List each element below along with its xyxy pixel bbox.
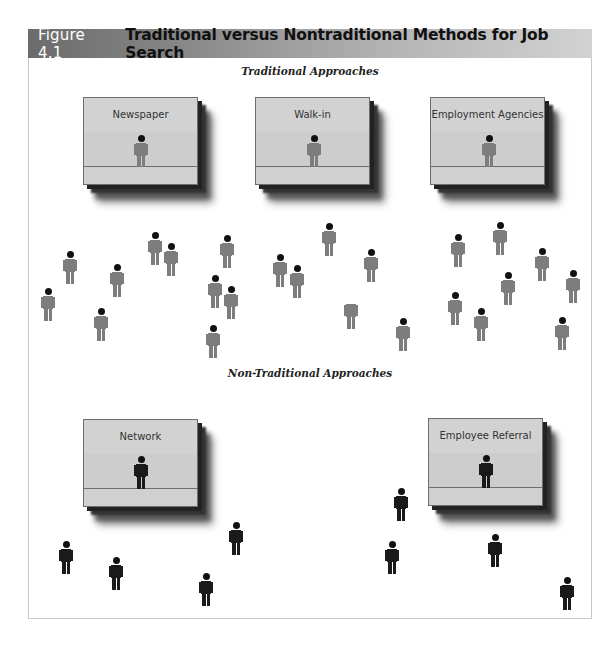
person-icon <box>273 254 287 288</box>
person-icon <box>134 135 148 169</box>
box-bottom-band <box>84 489 197 506</box>
box-network: Network <box>83 419 198 507</box>
box-middle-band <box>431 132 544 167</box>
person-icon <box>560 577 574 611</box>
box-walk-in: Walk-in <box>255 97 370 185</box>
box-middle-band <box>256 132 369 167</box>
person-icon <box>474 308 488 342</box>
box-newspaper: Newspaper <box>83 97 198 185</box>
person-icon <box>364 249 378 283</box>
person-icon <box>148 232 162 266</box>
box-middle-band <box>84 132 197 167</box>
box-bottom-band <box>429 488 542 505</box>
person-icon <box>206 325 220 359</box>
person-icon <box>229 522 243 556</box>
person-icon <box>109 557 123 591</box>
figure-title: Traditional versus Nontraditional Method… <box>125 26 592 62</box>
person-icon <box>322 223 336 257</box>
person-icon <box>396 318 410 352</box>
figure-title-bar: Figure 4.1 Traditional versus Nontraditi… <box>28 29 592 58</box>
box-bottom-band <box>256 167 369 184</box>
box-middle-band <box>429 453 542 488</box>
person-icon <box>344 296 358 330</box>
box-label: Employment Agencies <box>431 98 544 133</box>
person-icon <box>220 235 234 269</box>
nontraditional-heading: Non-Traditional Approaches <box>28 367 592 379</box>
person-icon <box>535 248 549 282</box>
person-icon <box>488 534 502 568</box>
box-employee-referral: Employee Referral <box>428 418 543 506</box>
person-icon <box>208 275 222 309</box>
person-icon <box>110 264 124 298</box>
person-icon <box>94 308 108 342</box>
person-icon <box>224 286 238 320</box>
person-icon <box>134 456 148 490</box>
box-label: Network <box>84 420 197 455</box>
person-icon <box>493 222 507 256</box>
person-icon <box>566 270 580 304</box>
person-icon <box>385 541 399 575</box>
figure-number: Figure 4.1 <box>38 26 111 62</box>
person-icon <box>479 455 493 489</box>
box-label: Newspaper <box>84 98 197 133</box>
person-icon <box>394 488 408 522</box>
person-icon <box>164 243 178 277</box>
person-icon <box>63 251 77 285</box>
box-label: Employee Referral <box>429 419 542 454</box>
person-icon <box>41 288 55 322</box>
person-icon <box>448 292 462 326</box>
box-employment-agencies: Employment Agencies <box>430 97 545 185</box>
box-bottom-band <box>84 167 197 184</box>
person-icon <box>307 135 321 169</box>
person-icon <box>451 234 465 268</box>
person-icon <box>199 573 213 607</box>
person-icon <box>555 317 569 351</box>
box-middle-band <box>84 454 197 489</box>
box-bottom-band <box>431 167 544 184</box>
traditional-heading: Traditional Approaches <box>28 65 592 77</box>
person-icon <box>290 265 304 299</box>
person-icon <box>59 541 73 575</box>
person-icon <box>501 272 515 306</box>
box-label: Walk-in <box>256 98 369 133</box>
person-icon <box>482 135 496 169</box>
